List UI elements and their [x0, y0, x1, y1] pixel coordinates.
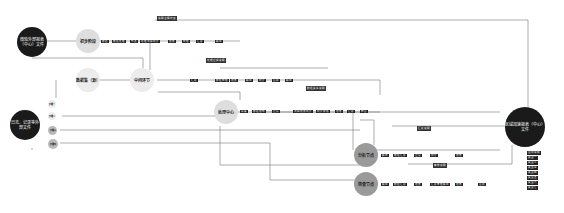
- row1-tag-6: 汇总: [196, 40, 204, 43]
- row1-tag-4: 结果: [168, 40, 176, 43]
- row2-tag-4: 统计: [258, 79, 266, 82]
- row4-tag-3: 统计: [430, 154, 438, 157]
- lower-a-node[interactable]: 分析节点: [354, 143, 378, 167]
- note-box-3: 数据关系说明: [306, 86, 326, 91]
- row2-tag-0: 汇总: [190, 79, 198, 82]
- second-hub-node[interactable]: 中间环节: [130, 68, 154, 92]
- node-label: 区域加速报表（中心）文件: [505, 122, 545, 132]
- row2-tag-6: 输出: [285, 79, 293, 82]
- node-label: 微软外部报表（中心）文件: [17, 37, 47, 47]
- note-box-1: 说明注释内容: [157, 16, 177, 21]
- row3-tag-7: 整合: [360, 110, 368, 113]
- row5-tag-0: 输出: [381, 183, 389, 186]
- row3-tag-0: 采集: [240, 110, 248, 113]
- row2-tag-2: 结果: [230, 79, 238, 82]
- note-box-2: 处理过程说明: [206, 58, 226, 63]
- second-stage-node[interactable]: 数据集（源）: [76, 68, 100, 92]
- row1-tag-1: 数据处理: [112, 40, 126, 43]
- left-step-3[interactable]: 步骤三: [48, 126, 57, 135]
- left-step-2[interactable]: 步骤二: [48, 112, 56, 120]
- row3-tag-5: 结果: [335, 110, 343, 113]
- row1-tag-3: 处理流程统计: [140, 40, 160, 43]
- node-label: 中间环节: [134, 78, 150, 83]
- row3-tag-1: 数据结构: [252, 110, 266, 113]
- node-label: 日志、记录等外部文件: [10, 120, 40, 130]
- step-label: 步骤一: [49, 102, 55, 107]
- left-step-1[interactable]: 步骤一: [48, 100, 56, 108]
- note-box-4: 汇总说明: [417, 126, 431, 131]
- note-box-5: 审核说明: [433, 163, 447, 168]
- legend-item: 类型三: [527, 166, 538, 170]
- row3-tag-6: 汇总: [347, 110, 355, 113]
- center-hub-node[interactable]: 处理中心: [214, 100, 238, 124]
- row1-tag-2: 节点: [130, 40, 138, 43]
- legend-item: 类型六: [527, 181, 538, 185]
- row4-tag-2: 过滤: [414, 154, 422, 157]
- row1-tag-7: 输出: [215, 40, 223, 43]
- row5-tag-4: 结果: [455, 183, 463, 186]
- row5-tag-5: 合并: [478, 183, 486, 186]
- row3-tag-4: 统计表格: [316, 110, 330, 113]
- row3-tag-2: 过滤: [272, 110, 280, 113]
- row5-tag-1: 数据汇总: [393, 183, 407, 186]
- row2-tag-1: 数据整理: [215, 79, 229, 82]
- legend: 图例说明 类型一 类型二 类型三 类型四 类型五 类型六 类型七: [527, 151, 541, 191]
- top-left-source-node[interactable]: 微软外部报表（中心）文件: [17, 27, 47, 57]
- legend-item: 类型二: [527, 161, 538, 165]
- node-label: 初步阶段: [80, 39, 96, 44]
- right-target-node[interactable]: 区域加速报表（中心）文件: [505, 107, 545, 147]
- row5-tag-2: 结果: [414, 183, 422, 186]
- row2-tag-5: 合并: [272, 79, 280, 82]
- legend-item: 类型五: [527, 176, 538, 180]
- legend-item: 类型七: [527, 186, 538, 190]
- lower-b-node[interactable]: 审查节点: [354, 172, 378, 196]
- legend-item: 类型四: [527, 171, 538, 175]
- node-label: 处理中心: [218, 110, 234, 115]
- step-label: 步骤四: [50, 142, 56, 147]
- bottom-left-source-node[interactable]: 日志、记录等外部文件: [10, 110, 40, 140]
- row4-tag-1: 数据汇总: [393, 154, 407, 157]
- step-label: 步骤二: [49, 114, 55, 119]
- legend-title: 图例说明: [527, 151, 541, 155]
- row2-tag-3: 输出: [245, 79, 253, 82]
- node-label: 审查节点: [358, 182, 374, 187]
- node-label: 数据集（源）: [76, 78, 100, 83]
- top-stage-node[interactable]: 初步阶段: [76, 29, 100, 53]
- node-label: 分析节点: [358, 153, 374, 158]
- row5-tag-3: 汇总整理输出: [430, 183, 450, 186]
- row4-tag-4: 结果: [455, 154, 463, 157]
- row1-tag-5: 整理: [182, 40, 190, 43]
- row3-tag-3: 流程结果统计: [293, 110, 313, 113]
- left-step-4[interactable]: 步骤四: [48, 139, 58, 149]
- legend-item: 类型一: [527, 156, 538, 160]
- step-label: 步骤三: [50, 128, 56, 133]
- row4-tag-0: 输出: [381, 154, 389, 157]
- row1-tag-0: 数据: [101, 40, 109, 43]
